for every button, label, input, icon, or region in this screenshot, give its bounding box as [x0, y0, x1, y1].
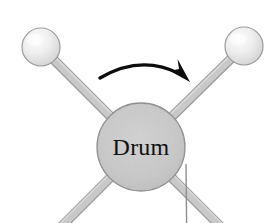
ball-upper-right-highlight [230, 33, 247, 45]
drum-body: Drum [97, 103, 185, 191]
drum-label: Drum [113, 134, 170, 160]
rotation-arrow-head [170, 59, 190, 82]
rotation-arrow [100, 59, 190, 82]
drum-rotation-figure: Drum [0, 0, 279, 223]
ball-upper-left [22, 28, 60, 66]
ball-upper-left-highlight [27, 34, 44, 46]
vertical-reference-line [186, 164, 187, 223]
rotation-arrow-arc [100, 65, 180, 78]
figure-canvas: Drum [0, 0, 279, 223]
ball-upper-right [225, 27, 263, 65]
